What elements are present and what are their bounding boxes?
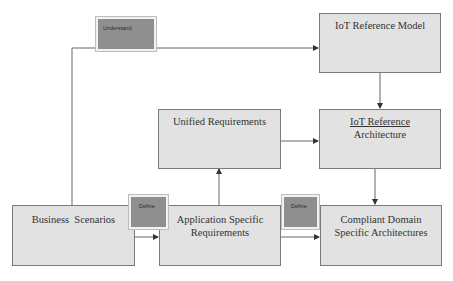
tag-label: Define — [291, 203, 307, 209]
node-label-line2: Specific Architectures — [321, 226, 441, 239]
node-label: IoT Reference Model — [335, 20, 425, 31]
node-label-line1: Application Specific — [160, 213, 280, 226]
node-label-line1: Compliant Domain — [321, 213, 441, 226]
node-business-scenarios: Business Scenarios — [12, 205, 135, 266]
node-unified-requirements: Unified Requirements — [158, 109, 281, 169]
node-label: Business Scenarios — [32, 214, 115, 225]
node-iot-reference-model: IoT Reference Model — [319, 13, 441, 73]
node-iot-reference-architecture: IoT Reference Architecture — [319, 109, 441, 169]
tag-label: Understand — [103, 25, 131, 31]
node-label-line2: Requirements — [160, 226, 280, 239]
tag-define-2: Define — [282, 195, 319, 229]
node-label-line2: Architecture — [320, 128, 440, 141]
tag-label: Define — [139, 203, 155, 209]
tag-understand: Understand — [96, 17, 156, 51]
node-label-line1: IoT Reference — [320, 115, 440, 128]
node-compliant-domain-specific-architectures: Compliant Domain Specific Architectures — [320, 205, 442, 266]
node-label: Unified Requirements — [173, 116, 266, 127]
node-application-specific-requirements: Application Specific Requirements — [159, 205, 281, 266]
tag-define-1: Define — [129, 195, 168, 229]
